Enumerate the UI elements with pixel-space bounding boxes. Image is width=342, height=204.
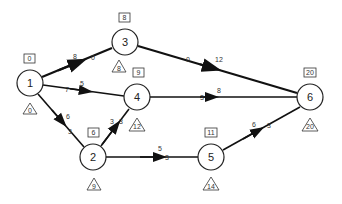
- node-5: 11 5 14: [198, 128, 224, 190]
- edge-2-4: 3 3: [101, 109, 129, 146]
- edge-3-6-float: 0: [186, 56, 190, 63]
- edge-1-4-float: 7: [65, 86, 69, 93]
- edge-2-5-duration: 5: [158, 145, 162, 152]
- node-1-earliest: 0: [28, 55, 32, 62]
- node-4-label: 4: [134, 91, 140, 103]
- edge-2-5-float: 3: [165, 154, 169, 161]
- node-6-latest: 20: [306, 123, 314, 130]
- node-5-earliest: 11: [207, 129, 214, 136]
- edge-2-4-duration: 3: [110, 118, 114, 125]
- node-5-label: 5: [208, 151, 214, 163]
- edge-2-4-float: 3: [119, 118, 123, 125]
- node-6: 20 6 20: [297, 68, 323, 131]
- node-6-earliest: 20: [306, 69, 314, 76]
- edge-3-6-duration: 12: [215, 56, 223, 63]
- node-6-label: 6: [307, 91, 313, 103]
- node-3: 8 3 8: [112, 13, 138, 72]
- edge-5-6-float: 3: [267, 122, 271, 129]
- edge-1-2: 6 3: [38, 94, 84, 147]
- edge-1-4: 7 5: [43, 80, 124, 97]
- node-2-latest: 9: [92, 183, 96, 190]
- edge-5-6: 6 3: [223, 107, 300, 150]
- network-diagram: 8 0 7 5 6 3 3 3 5 3 0 12 3 8: [0, 0, 342, 204]
- node-4-earliest: 9: [137, 69, 141, 76]
- node-2-earliest: 6: [92, 129, 96, 136]
- edge-1-2-float: 3: [68, 128, 72, 135]
- node-4: 9 4 12: [124, 68, 150, 131]
- node-1-latest: 0: [28, 107, 32, 114]
- edge-1-4-duration: 5: [80, 80, 84, 87]
- edge-4-6-float: 3: [200, 94, 204, 101]
- node-3-earliest: 8: [123, 14, 127, 21]
- edge-1-3-float: 0: [91, 54, 95, 61]
- node-3-latest: 8: [117, 65, 121, 72]
- edge-2-5: 5 3: [106, 145, 198, 162]
- node-1: 0 1 0: [17, 54, 43, 114]
- edge-4-6: 3 8: [150, 87, 297, 102]
- node-4-latest: 12: [133, 123, 141, 130]
- node-3-label: 3: [122, 36, 128, 48]
- edge-1-2-duration: 6: [66, 113, 70, 120]
- node-5-latest: 14: [207, 183, 215, 190]
- node-2: 6 2 9: [80, 128, 106, 190]
- edge-1-3-duration: 8: [73, 53, 77, 60]
- edge-4-6-duration: 8: [217, 87, 221, 94]
- node-2-label: 2: [90, 151, 96, 163]
- edge-1-3: 8 0: [42, 48, 112, 77]
- node-1-label: 1: [27, 77, 33, 89]
- edge-5-6-duration: 6: [252, 121, 256, 128]
